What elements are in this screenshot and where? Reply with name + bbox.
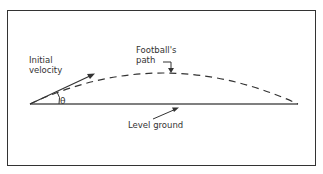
footballs-path-label: Football's path xyxy=(136,45,176,65)
projectile-diagram xyxy=(0,0,323,174)
theta-label: θ xyxy=(60,96,66,106)
initial-velocity-line1: Initial xyxy=(29,55,62,65)
football-path-curve xyxy=(30,73,298,104)
initial-velocity-line2: velocity xyxy=(29,65,62,75)
level-ground-label: Level ground xyxy=(128,120,183,130)
arrowhead-icon xyxy=(172,108,179,113)
initial-velocity-label: Initial velocity xyxy=(29,55,62,75)
footballs-path-line1: Football's xyxy=(136,45,176,55)
arrowhead-icon xyxy=(168,68,174,73)
footballs-path-line2: path xyxy=(136,55,176,65)
ground-pointer-arrow xyxy=(153,109,176,119)
